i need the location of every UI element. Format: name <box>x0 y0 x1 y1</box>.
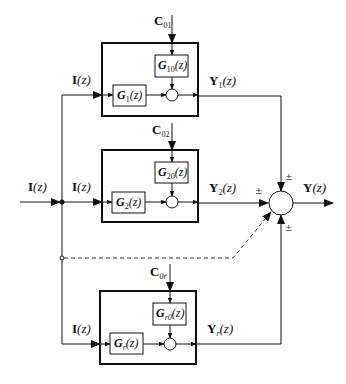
sign-left: ± <box>255 187 263 196</box>
symbol: G <box>117 88 126 102</box>
arg: (z) <box>220 321 234 336</box>
branch-1-input-label: I(z) <box>72 73 91 86</box>
branch-r-input-label: I(z) <box>72 322 91 335</box>
arg: (z) <box>222 73 236 88</box>
arg: (z) <box>126 336 139 350</box>
symbol: Y <box>209 180 218 195</box>
block-g1: G1(z) <box>117 89 142 104</box>
block-g2: G2(z) <box>116 196 141 211</box>
dashed-branch <box>60 212 271 260</box>
symbol: C <box>152 122 161 137</box>
sign-bottom: ± <box>285 224 293 233</box>
sub: 20 <box>167 172 175 181</box>
arg: (z) <box>77 179 91 194</box>
arg: (z) <box>175 58 188 72</box>
sub: 10 <box>167 65 175 74</box>
input-line <box>20 200 65 205</box>
branch-2-output-label: Y2(z) <box>209 181 236 197</box>
summing-junction <box>269 191 293 215</box>
output-label: Y(z) <box>303 181 326 194</box>
block-gr: Gr(z) <box>114 337 138 352</box>
block-diagram: I(z) I(z) C01 G10(z) G1(z) Y1(z) I(z) C0… <box>0 0 346 384</box>
branch-2-input-label: I(z) <box>72 180 91 193</box>
disturbance-c0r-label: C0r <box>150 265 167 281</box>
sub: r0 <box>165 313 172 322</box>
arg: (z) <box>222 180 236 195</box>
output-arg: (z) <box>312 180 326 195</box>
sub: 01 <box>163 21 171 30</box>
arg: (z) <box>77 321 91 336</box>
symbol: G <box>158 165 167 179</box>
symbol: G <box>156 306 165 320</box>
arg: (z) <box>172 306 185 320</box>
input-arg: (z) <box>33 179 47 194</box>
branch-1-output-label: Y1(z) <box>209 74 236 90</box>
arg: (z) <box>77 72 91 87</box>
diagram-lines <box>0 0 346 384</box>
arg: (z) <box>175 165 188 179</box>
branch-r-output-label: Yr(z) <box>207 322 233 338</box>
branch-r <box>62 215 281 364</box>
symbol: C <box>154 13 163 28</box>
block-g10: G10(z) <box>158 59 187 74</box>
symbol: C <box>150 264 159 279</box>
symbol: G <box>158 58 167 72</box>
symbol: Y <box>207 321 216 336</box>
sign-top: ± <box>285 173 293 182</box>
symbol: G <box>114 336 123 350</box>
block-g20: G20(z) <box>158 166 187 181</box>
sub: 02 <box>161 130 169 139</box>
arg: (z) <box>130 88 143 102</box>
disturbance-c02-label: C02 <box>152 123 169 139</box>
block-gr0: Gr0(z) <box>156 307 184 322</box>
input-label: I(z) <box>28 180 47 193</box>
arg: (z) <box>129 195 142 209</box>
output-symbol: Y <box>303 180 312 195</box>
sub: 0r <box>159 272 166 281</box>
disturbance-c01-label: C01 <box>154 14 171 30</box>
symbol: G <box>116 195 125 209</box>
symbol: Y <box>209 73 218 88</box>
